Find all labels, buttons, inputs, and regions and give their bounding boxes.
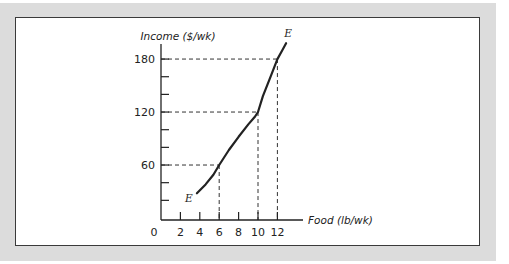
reference-lines [161,59,277,220]
x-tick-label: 4 [196,226,203,239]
x-tick-label: 0 [151,226,158,239]
x-tick-labels: 024681012 [151,226,285,239]
y-axis-title: Income ($/wk) [140,30,215,42]
x-tick-label: 10 [251,226,265,239]
x-tick-label: 2 [177,226,184,239]
engel-curve-line [197,43,286,193]
x-tick-label: 8 [235,226,242,239]
curve-label-end: E [283,27,292,39]
engel-curve-chart: 60120180 024681012 Income ($/wk) Food (l… [0,0,509,264]
y-tick-label: 180 [134,53,155,66]
x-ticks [180,212,277,220]
x-tick-label: 6 [216,226,223,239]
x-tick-label: 12 [270,226,284,239]
y-tick-labels: 60120180 [134,53,155,172]
y-ticks [161,59,169,200]
y-tick-label: 120 [134,106,155,119]
x-axis-title: Food (lb/wk) [308,214,373,226]
y-tick-label: 60 [141,159,155,172]
curve-label-start: E [184,192,193,204]
